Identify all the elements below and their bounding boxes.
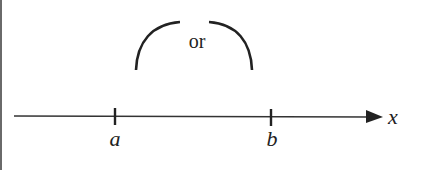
diagram-svg: or x a b [0, 0, 425, 170]
point-a-label: a [110, 126, 121, 151]
axis-arrow-icon [366, 110, 383, 123]
number-line-diagram: or x a b [0, 0, 425, 170]
x-axis-label: x [387, 104, 398, 129]
or-label: or [189, 30, 206, 52]
point-b-label: b [267, 126, 278, 151]
right-arc [209, 22, 252, 70]
left-arc [136, 22, 180, 70]
x-axis [14, 116, 370, 117]
